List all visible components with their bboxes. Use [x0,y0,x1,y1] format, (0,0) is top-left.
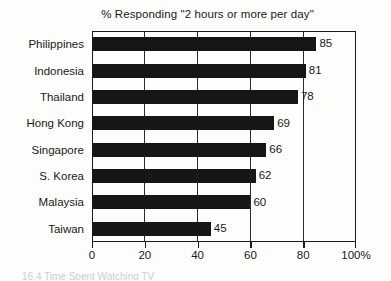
bar-series: 8581786966626045 [92,31,356,242]
bar-value-label: 85 [319,38,332,50]
category-label: Singapore [0,137,88,163]
bar [92,143,266,157]
bar-row: 60 [92,189,356,215]
bar-value-label: 78 [301,91,314,103]
x-tick-label: 0 [89,249,95,261]
x-tick-mark [198,242,199,248]
x-tick-label: 100% [341,249,370,261]
bar-value-label: 45 [214,223,227,235]
bar-row: 66 [92,137,356,163]
x-tick-label: 40 [191,249,204,261]
x-tick-label: 80 [297,249,310,261]
x-tick-mark [303,242,304,248]
bar-row: 45 [92,216,356,242]
bar [92,90,298,104]
bar-row: 62 [92,163,356,189]
bar [92,64,306,78]
bar-value-label: 66 [269,144,282,156]
bar-row: 81 [92,57,356,83]
bar-value-label: 62 [259,170,272,182]
bar-value-label: 81 [309,65,322,77]
category-label: Indonesia [0,57,88,83]
chart-page: % Responding "2 hours or more per day" P… [0,0,391,281]
bar-row: 78 [92,84,356,110]
x-tick-mark [250,242,251,248]
x-axis: 020406080100% [92,242,356,266]
x-tick-label: 60 [244,249,257,261]
category-label: Philippines [0,31,88,57]
bar-row: 69 [92,110,356,136]
bar [92,222,211,236]
x-tick-mark [355,242,356,248]
bar [92,116,274,130]
chart-title: % Responding "2 hours or more per day" [0,8,391,20]
x-tick-label: 20 [138,249,151,261]
category-label: Taiwan [0,216,88,242]
category-label: Thailand [0,84,88,110]
bar-value-label: 69 [277,118,290,130]
category-axis: PhilippinesIndonesiaThailandHong KongSin… [0,31,88,242]
bar [92,195,250,209]
category-label: Hong Kong [0,110,88,136]
bar [92,169,256,183]
bar-value-label: 60 [253,197,266,209]
bar-row: 85 [92,31,356,57]
x-tick-mark [145,242,146,248]
x-tick-mark [92,242,93,248]
bar [92,37,316,51]
figure-caption: 16.4 Time Spent Watching TV [22,271,154,280]
category-label: S. Korea [0,163,88,189]
category-label: Malaysia [0,189,88,215]
